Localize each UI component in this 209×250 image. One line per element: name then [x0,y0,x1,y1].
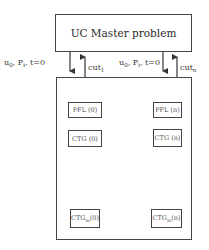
ctgm-n-box: CTGm(n) [151,209,182,228]
ctgm-0-box: CTGm(0) [70,209,100,228]
down-label-right: u0, Pi, t=0 [119,58,160,68]
up-label-left: cut1 [88,63,104,73]
ctgm-0-label: CTGm(0) [71,214,99,223]
master-problem-title: UC Master problem [71,27,177,39]
ctg-n-label: CTG (n) [155,134,181,142]
pfl-n-label: PFL (n) [155,106,180,114]
pfl-n-box: PFL (n) [153,102,182,118]
master-problem-box: UC Master problem [55,14,192,52]
up-label-right: cutn [180,63,196,73]
ctg-0-box: CTG (0) [68,130,102,147]
pfl-0-label: PFL (0) [73,106,97,114]
pfl-0-box: PFL (0) [68,102,102,118]
ctg-0-label: CTG (0) [72,135,98,143]
down-label-left: u0, Pi, t=0 [4,58,45,68]
ctg-n-box: CTG (n) [153,129,182,147]
ctgm-n-label: CTGm(n) [152,214,180,223]
